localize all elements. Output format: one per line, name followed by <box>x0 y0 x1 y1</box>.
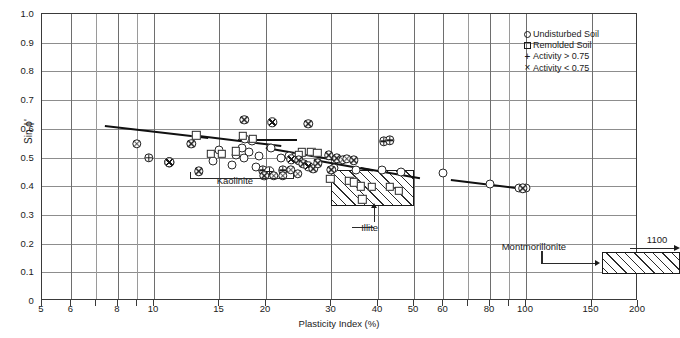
y-tick-label: 0.2 <box>20 237 34 248</box>
x-tick-label: 80 <box>484 303 495 314</box>
v-gridline <box>414 14 415 299</box>
illite-leader-line <box>374 208 375 222</box>
data-point <box>385 183 393 191</box>
v-gridline <box>490 14 491 299</box>
data-point <box>304 119 313 128</box>
data-point <box>240 154 249 163</box>
v-gridline <box>509 14 510 299</box>
data-point <box>326 175 334 183</box>
y-tick-label: 0.4 <box>20 180 34 191</box>
legend-item-square[interactable]: Remolded Soil <box>522 40 599 51</box>
montmorillonite-leader-horizontal <box>541 263 596 264</box>
v-gridline <box>378 14 379 299</box>
data-point <box>358 195 366 203</box>
v-gridline <box>266 14 267 299</box>
data-point <box>227 160 236 169</box>
y-tick-label: 1.0 <box>20 8 34 19</box>
y-tick-label: 0.1 <box>20 266 34 277</box>
x-tick-mark <box>95 300 96 306</box>
h-gridline <box>42 272 636 273</box>
legend-label: Activity < 0.75 <box>533 63 589 74</box>
data-point <box>268 118 277 127</box>
data-point <box>313 159 322 168</box>
data-point <box>349 156 358 165</box>
data-point <box>232 147 240 155</box>
y-tick-label: 0.6 <box>20 122 34 133</box>
data-point <box>144 153 153 162</box>
data-point <box>485 179 494 188</box>
x-tick-label: 40 <box>372 303 383 314</box>
overflow-arrow-line <box>630 248 676 249</box>
montmorillonite-leader-vertical <box>541 251 542 263</box>
v-gridline <box>137 14 138 299</box>
v-gridline <box>118 14 119 299</box>
legend-label: Undisturbed Soil <box>533 29 599 40</box>
v-gridline <box>443 14 444 299</box>
montmorillonite-label: Montmorillonite <box>502 241 566 252</box>
plot-area: KaoliniteIlliteMontmorillonite1100 Undis… <box>41 13 637 300</box>
data-point <box>313 149 321 157</box>
x-tick-label: 60 <box>437 303 448 314</box>
data-point <box>206 150 214 158</box>
x-tick-mark <box>467 300 468 306</box>
x-tick-label: 150 <box>583 303 599 314</box>
data-point <box>368 183 376 191</box>
data-point <box>208 157 217 166</box>
x-tick-label: 6 <box>68 303 73 314</box>
data-point <box>352 166 361 175</box>
data-point <box>293 169 302 178</box>
x-tick-label: 5 <box>38 303 43 314</box>
data-point <box>240 115 249 124</box>
data-point <box>439 168 448 177</box>
y-tick-label: 0.3 <box>20 208 34 219</box>
square-marker-icon <box>522 42 533 49</box>
data-point <box>385 136 394 145</box>
plus-marker-icon: + <box>522 52 533 62</box>
x-tick-label: 200 <box>629 303 645 314</box>
data-point <box>217 150 225 158</box>
h-gridline <box>42 100 636 101</box>
x-tick-label: 50 <box>408 303 419 314</box>
legend-item-cross[interactable]: ×Activity < 0.75 <box>522 63 599 74</box>
data-point <box>248 134 256 142</box>
y-tick-label: 0.7 <box>20 94 34 105</box>
data-point <box>165 158 174 167</box>
chart-legend: Undisturbed SoilRemolded Soil+Activity >… <box>522 29 599 74</box>
data-point <box>377 166 386 175</box>
data-point <box>396 168 405 177</box>
legend-label: Activity > 0.75 <box>533 51 589 62</box>
x-tick-label: 8 <box>114 303 119 314</box>
legend-item-circle[interactable]: Undisturbed Soil <box>522 29 599 40</box>
x-tick-label: 100 <box>517 303 533 314</box>
kaolinite-bracket <box>190 172 294 179</box>
circle-marker-icon <box>522 31 533 39</box>
data-point <box>238 132 246 140</box>
x-tick-label: 10 <box>148 303 159 314</box>
data-point <box>350 178 358 186</box>
x-tick-mark <box>508 300 509 306</box>
legend-label: Remolded Soil <box>533 40 592 51</box>
x-tick-label: 15 <box>213 303 224 314</box>
data-point <box>266 143 275 152</box>
v-gridline <box>71 14 72 299</box>
legend-item-plus[interactable]: +Activity > 0.75 <box>522 51 599 62</box>
overflow-arrow-head <box>674 245 680 251</box>
data-point <box>255 152 264 161</box>
v-gridline <box>154 14 155 299</box>
value-1100-label: 1100 <box>647 234 667 245</box>
y-tick-label: 0.5 <box>20 151 34 162</box>
data-point <box>192 131 200 139</box>
h-gridline <box>42 215 636 216</box>
cross-marker-icon: × <box>522 63 533 73</box>
x-tick-mark <box>136 300 137 306</box>
illite-leader-horizontal <box>352 227 374 228</box>
x-tick-label: 20 <box>260 303 271 314</box>
data-point <box>395 186 403 194</box>
illite-arrow-head <box>371 203 377 208</box>
data-point <box>187 139 196 148</box>
y-tick-label: 0.8 <box>20 65 34 76</box>
x-tick-label: 30 <box>325 303 336 314</box>
y-tick-label: 0.9 <box>20 36 34 47</box>
region-montmorillonite <box>602 252 680 274</box>
